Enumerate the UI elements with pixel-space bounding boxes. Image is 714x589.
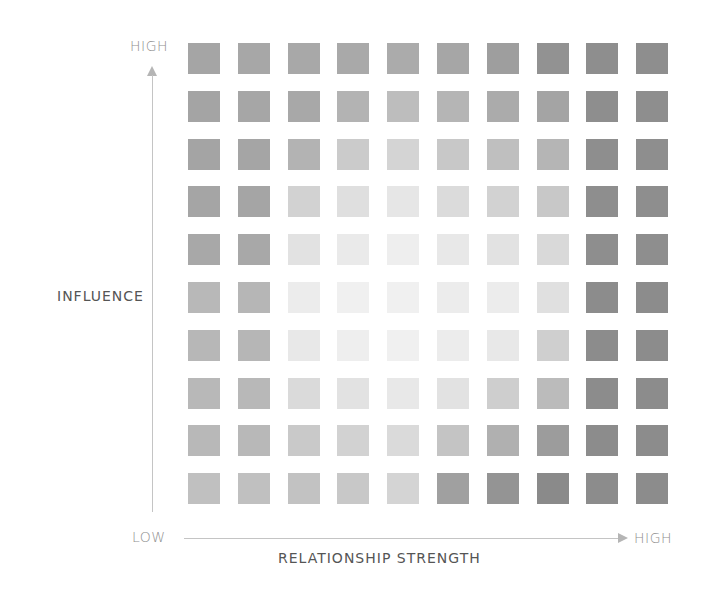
heatmap-cell (487, 330, 519, 361)
heatmap-cell (437, 330, 469, 361)
heatmap-cell (238, 234, 270, 265)
heatmap-cell (337, 473, 369, 504)
heatmap-cell (387, 234, 419, 265)
heatmap-cell (487, 282, 519, 313)
heatmap-cell (537, 91, 569, 122)
heatmap-cell (387, 330, 419, 361)
heatmap-cell (537, 425, 569, 456)
x-axis-arrowhead-icon (618, 533, 628, 543)
heatmap-cell (487, 91, 519, 122)
heatmap-cell (537, 378, 569, 409)
heatmap-cell (437, 186, 469, 217)
heatmap-cell (188, 234, 220, 265)
heatmap-cell (288, 282, 320, 313)
heatmap-cell (337, 43, 369, 74)
y-axis-high-label: HIGH (130, 38, 168, 54)
heatmap-cell (586, 139, 618, 170)
heatmap-cell (188, 330, 220, 361)
x-axis-title: RELATIONSHIP STRENGTH (278, 550, 481, 566)
y-axis-title: INFLUENCE (57, 288, 144, 304)
heatmap-cell (487, 186, 519, 217)
heatmap-cell (537, 234, 569, 265)
heatmap-cell (636, 473, 668, 504)
heatmap-cell (437, 378, 469, 409)
heatmap-cell (636, 234, 668, 265)
heatmap-cell (288, 425, 320, 456)
heatmap-cell (238, 91, 270, 122)
heatmap-cell (337, 91, 369, 122)
heatmap-cell (437, 91, 469, 122)
heatmap-cell (387, 378, 419, 409)
heatmap-cell (487, 425, 519, 456)
heatmap-cell (537, 186, 569, 217)
heatmap-cell (537, 330, 569, 361)
heatmap-cell (586, 43, 618, 74)
heatmap-cell (188, 91, 220, 122)
heatmap-cell (288, 43, 320, 74)
heatmap-cell (337, 139, 369, 170)
heatmap-cell (537, 43, 569, 74)
heatmap-cell (487, 473, 519, 504)
heatmap-cell (337, 234, 369, 265)
heatmap-cell (288, 378, 320, 409)
heatmap-cell (188, 186, 220, 217)
heatmap-cell (387, 139, 419, 170)
heatmap-cell (636, 43, 668, 74)
heatmap-cell (437, 139, 469, 170)
heatmap-cell (636, 378, 668, 409)
heatmap-cell (288, 139, 320, 170)
heatmap-cell (238, 186, 270, 217)
heatmap-cell (387, 43, 419, 74)
heatmap-cell (636, 330, 668, 361)
heatmap-cell (437, 282, 469, 313)
heatmap-cell (487, 139, 519, 170)
x-axis-low-label: LOW (132, 529, 166, 545)
heatmap-cell (586, 378, 618, 409)
heatmap-cell (586, 91, 618, 122)
y-axis-line (152, 75, 153, 512)
heatmap-cell (238, 378, 270, 409)
heatmap-cell (188, 425, 220, 456)
heatmap-cell (188, 282, 220, 313)
heatmap-cell (586, 473, 618, 504)
heatmap-cell (188, 139, 220, 170)
heatmap-cell (188, 378, 220, 409)
heatmap-cell (636, 91, 668, 122)
heatmap-cell (337, 282, 369, 313)
heatmap-cell (288, 186, 320, 217)
heatmap-cell (437, 234, 469, 265)
heatmap-cell (586, 425, 618, 456)
x-axis-high-label: HIGH (634, 530, 672, 546)
heatmap-cell (337, 378, 369, 409)
heatmap-cell (387, 282, 419, 313)
heatmap-cell (487, 234, 519, 265)
heatmap-cell (188, 43, 220, 74)
heatmap-cell (636, 186, 668, 217)
heatmap-cell (337, 330, 369, 361)
x-axis-line (184, 538, 619, 539)
heatmap-cell (238, 473, 270, 504)
heatmap-cell (288, 91, 320, 122)
heatmap-cell (586, 282, 618, 313)
heatmap-cell (238, 43, 270, 74)
heatmap-cell (238, 139, 270, 170)
heatmap-cell (537, 139, 569, 170)
heatmap-cell (586, 234, 618, 265)
heatmap-cell (586, 330, 618, 361)
heatmap-cell (537, 282, 569, 313)
heatmap-cell (387, 91, 419, 122)
heatmap-cell (437, 43, 469, 74)
heatmap-cell (387, 425, 419, 456)
heatmap-cell (337, 425, 369, 456)
heatmap-cell (437, 473, 469, 504)
heatmap-cell (586, 186, 618, 217)
heatmap-cell (288, 330, 320, 361)
heatmap-cell (288, 234, 320, 265)
heatmap-cell (288, 473, 320, 504)
heatmap-cell (238, 425, 270, 456)
heatmap-cell (636, 282, 668, 313)
heatmap-cell (238, 330, 270, 361)
heatmap-cell (238, 282, 270, 313)
heatmap-cell (387, 473, 419, 504)
heatmap-cell (337, 186, 369, 217)
